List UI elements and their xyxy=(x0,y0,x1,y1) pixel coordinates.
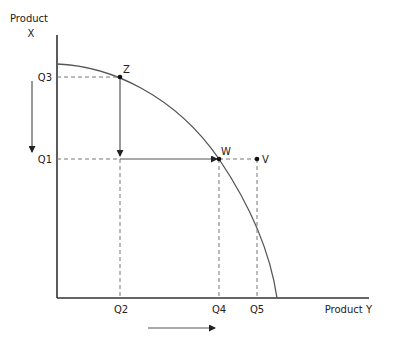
ppf-diagram: Product X Product Y Z W V Q3 Q1 Q2 Q4 Q5 xyxy=(0,0,396,347)
point-v-label: V xyxy=(262,154,269,165)
y-tick-q1: Q1 xyxy=(38,154,52,165)
y-axis-label-line2: X xyxy=(28,28,35,39)
y-tick-q3: Q3 xyxy=(38,72,52,83)
x-tick-q2: Q2 xyxy=(114,304,128,315)
point-w-label: W xyxy=(221,146,231,157)
point-z xyxy=(118,75,123,80)
x-axis-label: Product Y xyxy=(325,304,373,315)
point-z-label: Z xyxy=(123,64,130,75)
point-v xyxy=(255,157,260,162)
x-tick-q4: Q4 xyxy=(212,304,226,315)
y-axis-label-line1: Product xyxy=(10,13,48,24)
x-tick-q5: Q5 xyxy=(250,304,264,315)
point-w xyxy=(217,157,222,162)
ppf-curve xyxy=(57,64,277,298)
